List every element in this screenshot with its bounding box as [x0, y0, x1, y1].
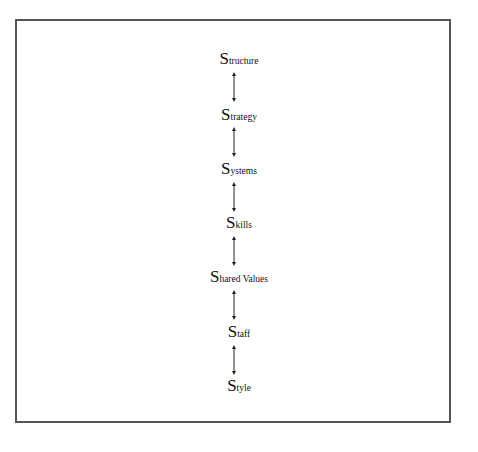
node-initial: S: [221, 105, 230, 124]
node-label: ystems: [231, 166, 257, 176]
node-label: tyle: [237, 383, 251, 393]
node-label: taff: [237, 329, 250, 339]
node-label: hared Values: [219, 274, 268, 284]
node-label: kills: [236, 220, 252, 230]
node-label: trategy: [231, 112, 257, 122]
node-label: tructure: [229, 56, 259, 66]
node-structure: Structure: [0, 50, 478, 67]
node-initial: S: [227, 376, 236, 395]
bidirectional-arrow-icon: [231, 236, 237, 266]
node-staff: Staff: [0, 323, 478, 340]
node-initial: S: [219, 49, 228, 68]
node-initial: S: [226, 213, 235, 232]
node-skills: Skills: [0, 214, 478, 231]
node-systems: Systems: [0, 160, 478, 177]
node-shared-values: Shared Values: [0, 268, 478, 285]
bidirectional-arrow-icon: [231, 72, 237, 102]
node-initial: S: [228, 322, 237, 341]
node-strategy: Strategy: [0, 106, 478, 123]
node-style: Style: [0, 377, 478, 394]
node-initial: S: [221, 159, 230, 178]
node-initial: S: [210, 267, 219, 286]
bidirectional-arrow-icon: [231, 127, 237, 157]
bidirectional-arrow-icon: [231, 290, 237, 320]
bidirectional-arrow-icon: [231, 182, 237, 212]
bidirectional-arrow-icon: [231, 345, 237, 375]
